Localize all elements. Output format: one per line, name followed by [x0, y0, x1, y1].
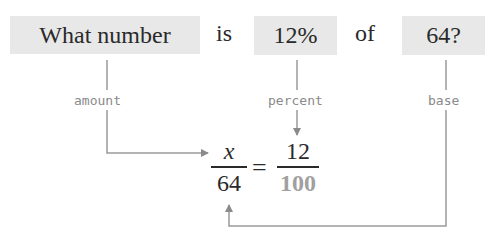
- right-fraction: 12 100: [277, 138, 319, 196]
- equals-sign: =: [252, 153, 267, 183]
- x-numerator: x: [211, 138, 247, 164]
- percent-label: percent: [268, 93, 323, 108]
- amount-label: amount: [74, 93, 121, 108]
- fraction-bar: [211, 166, 247, 168]
- 100-denominator: 100: [277, 170, 319, 196]
- connector-arrows: [0, 0, 497, 231]
- left-fraction: x 64: [211, 138, 247, 196]
- 64-denominator: 64: [211, 170, 247, 196]
- base-label: base: [428, 93, 459, 108]
- fraction-bar: [277, 166, 319, 168]
- 12-numerator: 12: [277, 138, 319, 164]
